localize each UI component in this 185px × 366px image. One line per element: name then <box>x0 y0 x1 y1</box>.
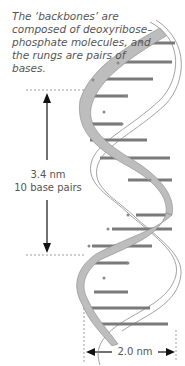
pitch-value: 3.4 nm <box>12 168 84 181</box>
pitch-base-pairs: 10 base pairs <box>12 181 84 194</box>
caption-text: The ‘backbones’ are composed of deoxyrib… <box>12 10 162 75</box>
phosphate-dot <box>121 123 124 126</box>
front-strand <box>77 28 173 346</box>
pitch-label: 3.4 nm 10 base pairs <box>12 168 84 194</box>
phosphate-dot <box>107 228 110 231</box>
phosphate-dot <box>127 262 130 265</box>
width-label: 2.0 nm <box>112 346 158 357</box>
phosphate-dot <box>127 214 130 217</box>
phosphate-dot <box>88 245 91 248</box>
phosphate-dot <box>92 79 95 82</box>
phosphate-dot <box>125 95 128 98</box>
phosphate-dot <box>103 111 106 114</box>
phosphate-dot <box>149 179 152 182</box>
phosphate-dot <box>103 277 106 280</box>
